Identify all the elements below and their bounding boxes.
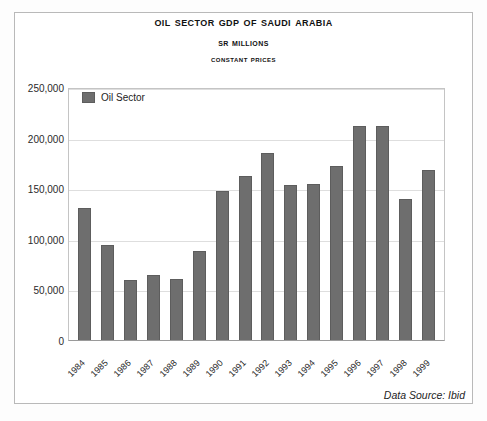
legend-swatch-oil-sector: [82, 92, 95, 103]
x-axis-tick: 1997: [377, 343, 390, 383]
x-axis-tick-label: 1998: [388, 358, 409, 379]
bar-1993[interactable]: [284, 185, 297, 340]
x-axis-tick: 1991: [238, 343, 251, 383]
x-axis-tick-label: 1993: [273, 358, 294, 379]
bar-1992[interactable]: [261, 153, 274, 340]
y-axis-tick-label: 100,000: [6, 234, 64, 245]
bar-1985[interactable]: [101, 245, 114, 340]
x-axis-tick-label: 1985: [88, 358, 109, 379]
x-axis-tick: 1989: [192, 343, 205, 383]
bar-1995[interactable]: [330, 166, 343, 340]
y-axis-tick-label: 50,000: [6, 285, 64, 296]
x-axis-tick-label: 1996: [342, 358, 363, 379]
x-axis-tick: 1985: [100, 343, 113, 383]
x-axis: 1984198519861987198819891990199119921993…: [68, 343, 445, 383]
y-axis-tick-label: 250,000: [6, 83, 64, 94]
x-axis-tick-label: 1987: [134, 358, 155, 379]
bar-1989[interactable]: [193, 251, 206, 340]
bar-1984[interactable]: [78, 208, 91, 340]
plot-area: [68, 88, 445, 341]
legend-label-oil-sector: Oil Sector: [101, 92, 145, 103]
bar-1994[interactable]: [307, 184, 320, 340]
bar-1988[interactable]: [170, 279, 183, 340]
bar-1990[interactable]: [216, 191, 229, 340]
x-axis-tick: 1993: [285, 343, 298, 383]
bar-1991[interactable]: [239, 176, 252, 340]
bar-1996[interactable]: [353, 126, 366, 340]
bar-1999[interactable]: [422, 170, 435, 340]
x-axis-tick: 1999: [423, 343, 436, 383]
x-axis-tick: 1995: [331, 343, 344, 383]
bar-1998[interactable]: [399, 199, 412, 340]
x-axis-tick-label: 1997: [365, 358, 386, 379]
x-axis-tick: 1986: [123, 343, 136, 383]
x-axis-tick-label: 1989: [180, 358, 201, 379]
bar-series-oil-sector: [69, 89, 444, 340]
x-axis-tick: 1994: [308, 343, 321, 383]
y-axis-tick-label: 150,000: [6, 184, 64, 195]
x-axis-tick: 1998: [400, 343, 413, 383]
x-axis-tick: 1990: [215, 343, 228, 383]
x-axis-tick: 1992: [262, 343, 275, 383]
x-axis-tick-label: 1991: [227, 358, 248, 379]
x-axis-tick-label: 1986: [111, 358, 132, 379]
y-axis-tick-label: 200,000: [6, 133, 64, 144]
x-axis-tick-label: 1992: [250, 358, 271, 379]
x-axis-tick-label: 1995: [319, 358, 340, 379]
x-axis-tick: 1988: [169, 343, 182, 383]
data-source-note: Data Source: Ibid: [384, 389, 465, 401]
y-axis: 050,000100,000150,000200,000250,000: [2, 88, 64, 341]
chart-page: Oil Sector GDP of Saudi Arabia SR Millio…: [0, 0, 487, 421]
x-axis-tick: 1984: [77, 343, 90, 383]
y-axis-tick-label: 0: [6, 336, 64, 347]
chart-subtitle-units: SR Millions: [0, 36, 487, 49]
x-axis-tick-label: 1984: [65, 358, 86, 379]
bar-1987[interactable]: [147, 275, 160, 340]
page-title: Oil Sector GDP of Saudi Arabia: [0, 14, 487, 30]
x-axis-tick-label: 1988: [157, 358, 178, 379]
bar-1986[interactable]: [124, 280, 137, 340]
chart-subtitle-basis: Constant Prices: [0, 54, 487, 65]
chart-title-block: Oil Sector GDP of Saudi Arabia SR Millio…: [0, 14, 487, 65]
x-axis-tick: 1987: [146, 343, 159, 383]
x-axis-tick: 1996: [354, 343, 367, 383]
x-axis-tick-label: 1990: [204, 358, 225, 379]
x-axis-tick-label: 1994: [296, 358, 317, 379]
legend: Oil Sector: [82, 92, 145, 103]
x-axis-tick-label: 1999: [411, 358, 432, 379]
bar-1997[interactable]: [376, 126, 389, 340]
